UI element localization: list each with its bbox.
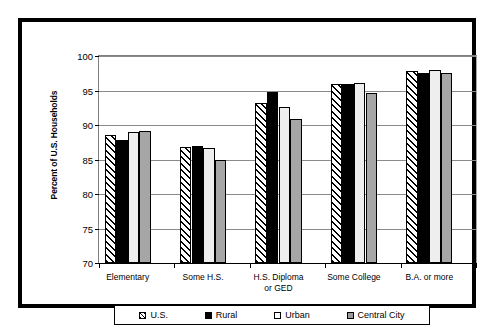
bar-u-s-4 xyxy=(406,71,418,264)
y-tick-mark xyxy=(95,125,99,126)
x-category-label-line: Some College xyxy=(327,272,380,283)
x-tick-mark xyxy=(401,263,402,268)
legend-entry-rural[interactable]: Rural xyxy=(205,310,238,320)
y-tick-label: 95 xyxy=(71,85,93,96)
y-tick-mark xyxy=(95,56,99,57)
bar-u-s-3 xyxy=(331,84,343,263)
x-category-label-line: B.A. or more xyxy=(405,272,453,283)
bar-central-city-4 xyxy=(441,73,453,263)
legend-label: U.S. xyxy=(150,310,168,320)
bar-urban-0 xyxy=(128,132,140,263)
x-tick-mark xyxy=(174,263,175,268)
x-category-label: B.A. or more xyxy=(405,272,453,283)
y-tick-label: 70 xyxy=(71,258,93,269)
x-tick-mark xyxy=(99,263,100,268)
legend-swatch-icon xyxy=(347,312,354,319)
x-category-label: Some H.S. xyxy=(183,272,224,283)
y-tick-label: 100 xyxy=(71,51,93,62)
bar-central-city-1 xyxy=(215,160,227,264)
x-tick-mark xyxy=(325,263,326,268)
x-category-label-line: Some H.S. xyxy=(183,272,224,283)
x-category-label-line: or GED xyxy=(253,283,303,294)
legend-label: Urban xyxy=(285,310,310,320)
y-tick-label: 90 xyxy=(71,120,93,131)
legend-label: Central City xyxy=(358,310,405,320)
bar-u-s-1 xyxy=(180,147,192,263)
bar-rural-0 xyxy=(116,140,128,264)
legend-label: Rural xyxy=(216,310,238,320)
y-tick-mark xyxy=(95,194,99,195)
legend-entry-central-city[interactable]: Central City xyxy=(347,310,405,320)
x-tick-mark xyxy=(476,263,477,268)
y-tick-label: 75 xyxy=(71,223,93,234)
legend-swatch-icon xyxy=(274,312,281,319)
legend-swatch-icon xyxy=(139,312,146,319)
y-tick-label: 80 xyxy=(71,189,93,200)
chart-legend: U.S.RuralUrbanCentral City xyxy=(114,305,430,325)
y-tick-label: 85 xyxy=(71,154,93,165)
y-axis-title: Percent of U.S. Households xyxy=(49,55,59,235)
bar-central-city-0 xyxy=(139,131,151,263)
bar-rural-4 xyxy=(418,73,430,263)
bar-urban-1 xyxy=(203,148,215,263)
chart-figure: Percent of U.S. Households 7075808590951… xyxy=(0,0,494,326)
bar-urban-2 xyxy=(279,107,291,263)
x-category-label: Elementary xyxy=(106,272,149,283)
x-category-label: Some College xyxy=(327,272,380,283)
x-tick-mark xyxy=(250,263,251,268)
x-category-label-line: Elementary xyxy=(106,272,149,283)
bar-u-s-2 xyxy=(255,103,267,263)
bar-rural-3 xyxy=(342,84,354,263)
plot-area: 707580859095100 ElementarySome H.S.H.S. … xyxy=(98,55,477,264)
legend-entry-u-s[interactable]: U.S. xyxy=(139,310,168,320)
x-category-label-line: H.S. Diploma xyxy=(253,272,303,283)
bar-urban-4 xyxy=(429,70,441,263)
bar-urban-3 xyxy=(354,83,366,263)
bar-rural-2 xyxy=(267,92,279,263)
legend-swatch-icon xyxy=(205,312,212,319)
chart-outer-frame: Percent of U.S. Households 7075808590951… xyxy=(18,18,476,308)
x-category-label: H.S. Diplomaor GED xyxy=(253,272,303,294)
bar-rural-1 xyxy=(192,146,204,263)
bar-central-city-2 xyxy=(290,119,302,263)
bar-u-s-0 xyxy=(105,135,117,263)
legend-entry-urban[interactable]: Urban xyxy=(274,310,310,320)
gridline xyxy=(99,56,476,57)
y-tick-mark xyxy=(95,160,99,161)
y-tick-mark xyxy=(95,229,99,230)
bar-central-city-3 xyxy=(366,93,378,263)
y-tick-mark xyxy=(95,91,99,92)
